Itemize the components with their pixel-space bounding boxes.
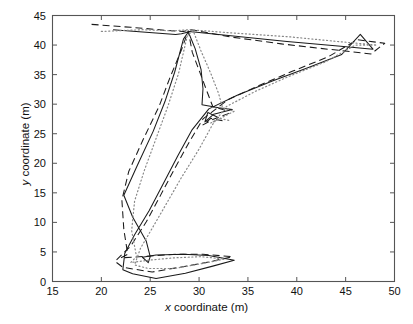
y-tick-label: 40 <box>22 39 46 51</box>
x-tick-label: 30 <box>193 285 205 297</box>
x-tick-label: 45 <box>340 285 352 297</box>
y-axis-label-symbol: y <box>19 180 31 186</box>
trajectory-dashed <box>92 24 385 272</box>
y-axis-label: y coordinate (m) <box>19 64 31 224</box>
y-tick-label: 5 <box>22 246 46 258</box>
axes-frame <box>53 16 395 282</box>
x-tick-label: 40 <box>291 285 303 297</box>
x-axis-label: x coordinate (m) <box>0 301 413 313</box>
figure-container: 1520253035404550 051015202530354045 x co… <box>0 0 413 324</box>
y-tick-label: 45 <box>22 10 46 22</box>
chart-plot-area <box>0 0 413 324</box>
trajectory-solid <box>113 30 373 279</box>
x-axis-label-text: coordinate (m) <box>171 301 248 313</box>
x-tick-label: 50 <box>388 285 400 297</box>
trajectory-dotted <box>101 30 377 269</box>
y-axis-label-text: coordinate (m) <box>19 102 31 179</box>
axis-ticks <box>53 16 395 282</box>
x-tick-label: 15 <box>46 285 58 297</box>
y-tick-label: 0 <box>22 276 46 288</box>
x-tick-label: 25 <box>144 285 156 297</box>
x-tick-label: 20 <box>95 285 107 297</box>
data-series-group <box>92 24 385 278</box>
x-tick-label: 35 <box>242 285 254 297</box>
